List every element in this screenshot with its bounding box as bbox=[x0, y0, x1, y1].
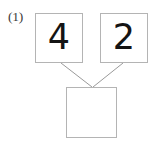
question-number-label: (1) bbox=[8, 8, 30, 25]
bottom-total-answer-box[interactable] bbox=[66, 87, 117, 138]
top-right-addend-value: 2 bbox=[113, 20, 135, 55]
right-connector-line bbox=[93, 63, 123, 87]
number-bond-figure: (1) 4 2 bbox=[0, 0, 158, 148]
left-connector-line bbox=[61, 63, 92, 87]
top-left-addend-value: 4 bbox=[48, 20, 70, 55]
top-left-addend-box[interactable]: 4 bbox=[35, 13, 83, 63]
top-right-addend-box[interactable]: 2 bbox=[100, 13, 148, 63]
